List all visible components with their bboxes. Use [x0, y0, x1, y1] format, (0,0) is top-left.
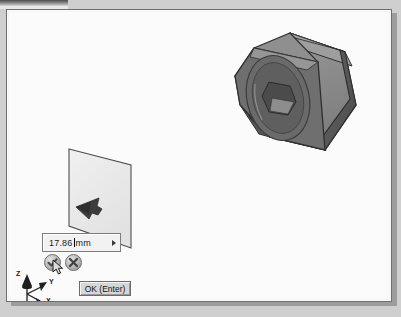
axis-label-z: Z	[16, 270, 20, 277]
extrude-distance-input[interactable]: 17.86mm	[42, 233, 121, 252]
extrude-distance-value: 17.86	[49, 238, 73, 248]
axis-triad-graphic	[22, 274, 47, 301]
modeling-canvas[interactable]: Z Y X 17.86mm OK (Ent	[6, 9, 392, 302]
mouse-cursor-icon	[52, 259, 65, 276]
extrude-distance-value-wrap: 17.86mm	[43, 238, 91, 248]
extrude-distance-unit: mm	[76, 238, 91, 248]
ok-enter-button-label: OK (Enter)	[85, 284, 126, 294]
cancel-button[interactable]	[65, 254, 82, 271]
ok-enter-button[interactable]: OK (Enter)	[79, 281, 131, 296]
close-icon	[66, 255, 81, 270]
chevron-right-icon[interactable]	[112, 240, 116, 246]
axis-label-x: X	[46, 297, 51, 302]
hex-nut-model	[235, 33, 356, 150]
application-root: Z Y X 17.86mm OK (Ent	[0, 0, 401, 317]
axis-label-y: Y	[49, 278, 54, 285]
text-caret	[74, 238, 75, 247]
